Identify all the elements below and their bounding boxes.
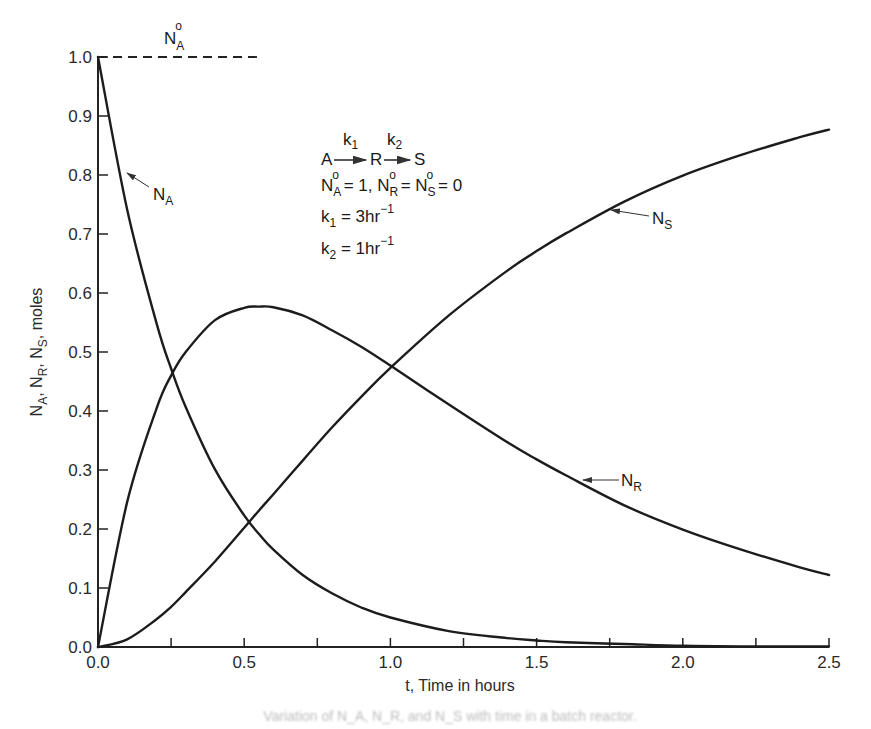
y-tick-label: 0.9 <box>68 107 92 126</box>
svg-text:S: S <box>414 150 425 169</box>
y-axis-ticks: 0.00.10.20.30.40.50.60.70.80.91.0 <box>68 48 108 657</box>
x-tick-label: 2.5 <box>817 653 841 672</box>
figure-caption: Variation of N_A, N_R, and N_S with time… <box>150 708 750 724</box>
x-tick-label: 2.0 <box>671 653 695 672</box>
x-axis-ticks: 0.00.51.01.52.02.5 <box>86 638 841 672</box>
x-tick-label: 0.5 <box>232 653 256 672</box>
curves <box>98 57 829 647</box>
svg-text:k2: k2 <box>387 130 403 152</box>
initial-conditions: NAo = 1, NRo = NSo = 0 <box>321 168 462 199</box>
svg-text:k1: k1 <box>343 130 359 152</box>
label-NR: NR <box>583 471 642 494</box>
svg-text:NR: NR <box>621 471 642 494</box>
x-tick-label: 1.5 <box>525 653 549 672</box>
svg-text:R: R <box>370 150 382 169</box>
x-axis-label: t, Time in hours <box>405 677 514 694</box>
x-tick-label: 0.0 <box>86 653 110 672</box>
y-tick-label: 0.1 <box>68 579 92 598</box>
label-NS: NS <box>611 209 672 232</box>
svg-text:NS: NS <box>652 209 672 232</box>
reaction-scheme: A <box>321 150 333 169</box>
reaction-info: A k1 R k2 S NAo = 1, NRo = NSo = 0 k1 = … <box>321 130 462 262</box>
y-tick-label: 0.3 <box>68 461 92 480</box>
curve-NA <box>98 57 829 646</box>
k1-value: k1 = 3hr−1 <box>321 202 394 230</box>
y-tick-label: 0.8 <box>68 166 92 185</box>
y-tick-label: 1.0 <box>68 48 92 67</box>
axes <box>98 57 829 647</box>
x-tick-label: 1.0 <box>379 653 403 672</box>
arrow-NS <box>611 210 649 216</box>
y-tick-label: 0.4 <box>68 402 92 421</box>
y-tick-label: 0.7 <box>68 225 92 244</box>
arrow-NA <box>127 173 149 187</box>
reference-label: NAo <box>164 19 184 53</box>
y-tick-label: 0.2 <box>68 520 92 539</box>
svg-text:NA: NA <box>153 185 173 208</box>
kinetics-chart: 0.00.10.20.30.40.50.60.70.80.91.0 0.00.5… <box>0 0 871 729</box>
y-axis-label: NA, NR, NS, moles <box>28 288 50 417</box>
label-NA: NA <box>127 173 173 208</box>
y-tick-label: 0.6 <box>68 284 92 303</box>
curve-NS <box>98 130 829 647</box>
curve-NR <box>98 306 829 647</box>
k2-value: k2 = 1hr−1 <box>321 234 394 262</box>
y-tick-label: 0.5 <box>68 343 92 362</box>
